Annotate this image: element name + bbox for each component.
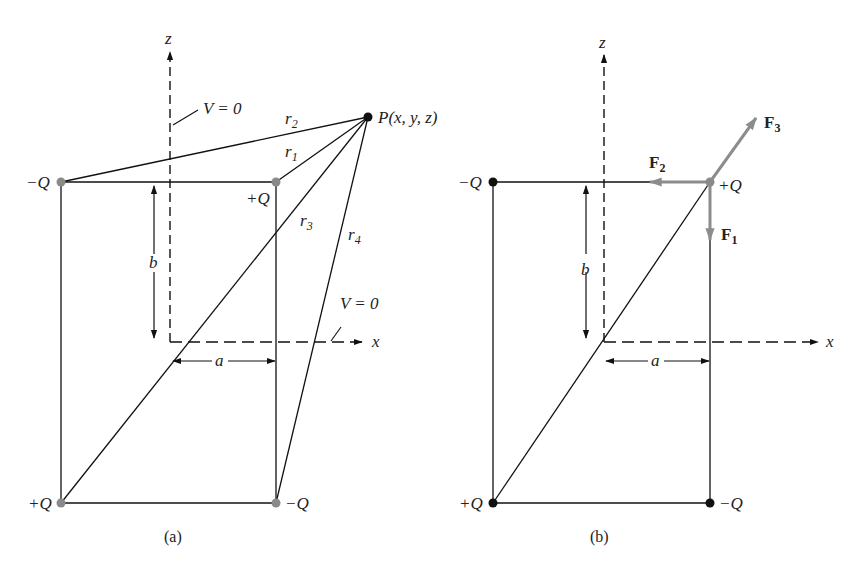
- charge-label-pos-top-right: +Q: [246, 189, 270, 208]
- point-p: [364, 113, 373, 122]
- force-f2-label: F2: [649, 153, 665, 175]
- z-axis-label: z: [598, 33, 606, 52]
- charge-pos-top-right: [272, 178, 281, 187]
- charge-pos-bottom-left: [57, 499, 66, 508]
- dimension-a-label: a: [215, 351, 224, 370]
- force-f1-label: F1: [721, 225, 737, 247]
- charge-label-pos-bottom-left: +Q: [459, 494, 483, 513]
- dimension-b-label: b: [149, 253, 158, 272]
- charge-pos-bottom-left: [489, 499, 498, 508]
- charge-label-pos-top-right: +Q: [718, 176, 742, 195]
- charge-label-pos-bottom-left: +Q: [28, 494, 52, 513]
- v-zero-label-z: V = 0: [203, 99, 242, 118]
- x-axis-label: x: [371, 332, 380, 351]
- panel-b: z x b a F2 F1 F3 −Q +Q +Q −Q: [458, 33, 834, 546]
- charge-pos-top-right: [706, 178, 715, 187]
- v-zero-label-x: V = 0: [340, 294, 379, 313]
- charge-label-neg-top-left: −Q: [26, 173, 50, 192]
- z-axis-label: z: [164, 29, 172, 48]
- r3-label: r3: [300, 211, 313, 233]
- force-f3-label: F3: [764, 113, 780, 135]
- figure-canvas: z x b a V = 0 V = 0 r2 r1 r3 r4: [0, 0, 866, 572]
- charge-label-neg-bottom-right: −Q: [719, 494, 743, 513]
- charge-neg-bottom-right: [272, 499, 281, 508]
- x-axis-label: x: [825, 332, 834, 351]
- force-f3-arrow: [710, 118, 756, 182]
- caption-b: (b): [590, 528, 609, 546]
- charge-neg-top-left: [489, 178, 498, 187]
- r4-label: r4: [348, 225, 361, 247]
- dimension-b-label: b: [581, 260, 590, 279]
- r2-label: r2: [285, 109, 298, 131]
- charge-label-neg-top-left: −Q: [458, 173, 482, 192]
- v-zero-leader-z: [173, 110, 198, 125]
- dimension-a-label: a: [651, 351, 660, 370]
- charge-label-neg-bottom-right: −Q: [285, 494, 309, 513]
- charge-neg-bottom-right: [706, 499, 715, 508]
- caption-a: (a): [164, 528, 182, 546]
- r1-label: r1: [285, 142, 298, 164]
- charge-neg-top-left: [57, 178, 66, 187]
- panel-a: z x b a V = 0 V = 0 r2 r1 r3 r4: [26, 29, 438, 546]
- v-zero-leader-x: [331, 327, 341, 341]
- point-p-label: P(x, y, z): [377, 108, 438, 127]
